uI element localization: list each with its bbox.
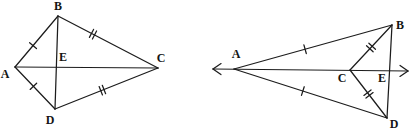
segment-BC: [58, 16, 158, 68]
segment-BD: [387, 25, 392, 118]
vertex-label-D: D: [390, 117, 399, 131]
segment-AD: [234, 69, 387, 118]
segment-CB: [350, 25, 392, 70]
vertex-label-C: C: [157, 51, 166, 65]
segment-AD: [15, 67, 55, 109]
figure-right-dart: ABCDE: [213, 18, 408, 131]
vertex-label-B: B: [396, 18, 404, 32]
vertex-label-E: E: [378, 71, 386, 85]
vertex-label-A: A: [1, 67, 10, 81]
vertex-label-C: C: [338, 71, 347, 85]
diagram-canvas: ABCDEABCDE: [0, 0, 413, 135]
segment-BD: [55, 16, 58, 109]
segment-AC: [15, 67, 158, 68]
vertex-label-B: B: [54, 0, 62, 13]
vertex-label-A: A: [232, 47, 241, 61]
figure-left-kite: ABCDE: [1, 0, 166, 127]
segment-AB: [15, 16, 58, 67]
tick-mark-BC: [89, 29, 93, 37]
tick-mark-BC: [92, 31, 96, 39]
vertex-label-E: E: [59, 50, 67, 64]
segment-DC: [55, 68, 158, 109]
geometry-diagram-svg: ABCDEABCDE: [0, 0, 413, 135]
vertex-label-D: D: [46, 113, 55, 127]
